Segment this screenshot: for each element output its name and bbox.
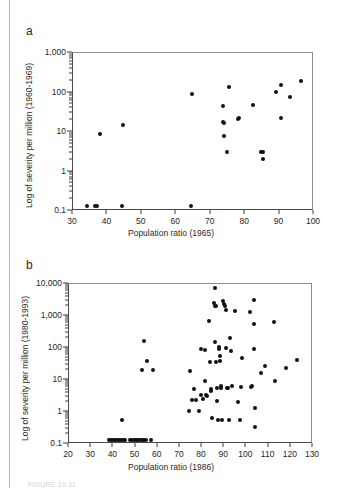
plot-area-b: [68, 283, 312, 443]
y-minor-tick: [69, 107, 72, 108]
data-point: [151, 368, 155, 372]
data-point: [221, 104, 225, 108]
x-tick: [140, 210, 141, 214]
data-point: [261, 157, 265, 161]
y-minor-tick: [69, 142, 72, 143]
data-point: [190, 92, 194, 96]
x-tick-label: 60: [171, 216, 180, 226]
data-point: [187, 409, 191, 413]
y-minor-tick: [69, 151, 72, 152]
data-point: [98, 132, 102, 136]
data-point: [239, 385, 243, 389]
data-point: [144, 438, 148, 442]
data-point: [284, 366, 288, 370]
y-minor-tick: [65, 295, 68, 296]
data-point: [261, 150, 265, 154]
y-minor-tick: [65, 316, 68, 317]
y-minor-tick: [65, 369, 68, 370]
data-point: [188, 369, 192, 373]
x-tick-label: 40: [102, 216, 111, 226]
data-point: [237, 116, 241, 120]
data-point: [273, 379, 277, 383]
y-minor-tick: [65, 427, 68, 428]
data-point: [220, 418, 224, 422]
data-point: [263, 364, 267, 368]
x-tick: [313, 210, 314, 214]
data-point: [274, 90, 278, 94]
y-minor-tick: [65, 391, 68, 392]
y-minor-tick: [69, 112, 72, 113]
y-tick: [63, 283, 68, 284]
data-point: [120, 204, 124, 208]
data-point: [210, 416, 214, 420]
data-point: [279, 116, 283, 120]
y-minor-tick: [69, 72, 72, 73]
y-minor-tick: [65, 383, 68, 384]
data-point: [225, 150, 229, 154]
data-point: [236, 400, 240, 404]
data-point: [248, 310, 252, 314]
data-point: [219, 386, 223, 390]
y-minor-tick: [69, 119, 72, 120]
y-minor-tick: [65, 423, 68, 424]
data-point: [233, 309, 237, 313]
y-tick: [67, 131, 72, 132]
y-minor-tick: [69, 146, 72, 147]
data-point: [142, 339, 146, 343]
data-point: [229, 349, 233, 353]
x-tick: [209, 210, 210, 214]
data-point: [208, 360, 212, 364]
y-minor-tick: [69, 58, 72, 59]
data-point: [216, 418, 220, 422]
y-minor-tick: [65, 350, 68, 351]
y-minor-tick: [65, 382, 68, 383]
data-point: [95, 204, 99, 208]
data-point: [209, 389, 213, 393]
data-point: [253, 425, 257, 429]
data-point: [205, 394, 209, 398]
x-tick-label: 40: [108, 449, 117, 459]
y-tick: [67, 91, 72, 92]
y-minor-tick: [65, 305, 68, 306]
y-minor-tick: [65, 319, 68, 320]
y-minor-tick: [69, 186, 72, 187]
y-minor-tick: [69, 79, 72, 80]
y-minor-tick: [65, 433, 68, 434]
y-minor-tick: [65, 284, 68, 285]
figure-caption-partial: FIGURE 10-11: [28, 481, 76, 488]
y-minor-tick: [65, 415, 68, 416]
x-tick-label: 20: [63, 449, 72, 459]
y-minor-tick: [65, 324, 68, 325]
x-tick-label: 90: [219, 449, 228, 459]
y-minor-tick: [65, 351, 68, 352]
data-point: [120, 418, 124, 422]
y-tick: [63, 379, 68, 380]
y-minor-tick: [69, 198, 72, 199]
y-minor-tick: [65, 348, 68, 349]
y-tick: [63, 347, 68, 348]
y-tick: [67, 170, 72, 171]
data-point: [228, 336, 232, 340]
data-point: [123, 438, 127, 442]
data-point: [207, 319, 211, 323]
y-minor-tick: [69, 182, 72, 183]
x-tick: [106, 210, 107, 214]
x-tick: [312, 443, 313, 447]
x-tick: [245, 443, 246, 447]
y-minor-tick: [69, 67, 72, 68]
y-minor-tick: [65, 386, 68, 387]
y-minor-tick: [69, 158, 72, 159]
data-point: [227, 85, 231, 89]
y-tick: [63, 315, 68, 316]
x-tick-label: 100: [238, 449, 252, 459]
data-point: [215, 399, 219, 403]
y-tick: [67, 210, 72, 211]
x-tick: [289, 443, 290, 447]
x-tick: [278, 210, 279, 214]
data-point: [224, 346, 228, 350]
x-tick-label: 30: [67, 216, 76, 226]
chart-panel-b: b 20304050607080901001101201300.11101001…: [0, 244, 342, 488]
panel-label-b: b: [26, 258, 33, 272]
plot-area-a: [72, 52, 313, 210]
y-minor-tick: [65, 388, 68, 389]
